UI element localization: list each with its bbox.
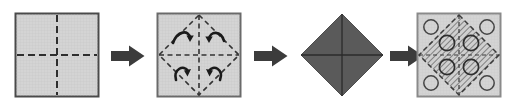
step-panel-1 — [14, 12, 100, 98]
step-4-graphic — [416, 12, 502, 98]
step-1-graphic — [14, 12, 100, 98]
arrow-shape — [254, 46, 288, 67]
step-panel-2 — [156, 12, 242, 98]
step-arrow-1 — [111, 45, 145, 67]
step-arrow-2 — [254, 45, 288, 67]
step-panel-4 — [416, 12, 502, 98]
step-3-graphic — [299, 12, 385, 98]
diagram-canvas — [0, 0, 518, 110]
right-arrow-icon — [254, 45, 288, 67]
arrow-shape — [111, 46, 145, 67]
step-2-graphic — [156, 12, 242, 98]
step-panel-3 — [299, 12, 385, 98]
right-arrow-icon — [111, 45, 145, 67]
